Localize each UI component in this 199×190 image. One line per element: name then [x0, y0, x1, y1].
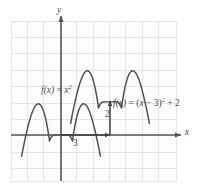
y-axis-label: y — [57, 6, 61, 16]
f2-eq: = — [126, 98, 136, 108]
f1-eq: = — [54, 85, 64, 95]
curve-label-x-squared: f(x) = x2 — [41, 86, 72, 96]
f2-vshift: 2 — [175, 98, 180, 108]
horizontal-shift-label: 3 — [73, 139, 78, 149]
f2-arg: (x) — [116, 98, 127, 108]
f1-arg: (x) — [44, 85, 55, 95]
vertical-shift-label: 2 — [105, 110, 110, 120]
f1-exponent: 2 — [69, 83, 72, 90]
f2-plus: + — [165, 98, 175, 108]
x-axis-label: x — [185, 128, 189, 138]
curve-label-shifted: f(x) = (x − 3)2 + 2 — [113, 99, 180, 109]
plot-canvas — [0, 0, 199, 190]
f2-minus: − — [144, 98, 154, 108]
graph-figure: f(x) = x2 f(x) = (x − 3)2 + 2 x y 3 2 — [0, 0, 199, 190]
